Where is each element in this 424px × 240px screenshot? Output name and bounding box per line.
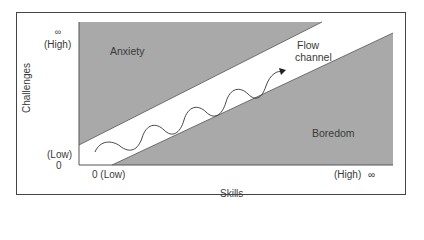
flow-label-line2: channel xyxy=(295,52,332,63)
y-low-label: (Low) xyxy=(47,150,72,160)
x-low-label: 0 (Low) xyxy=(92,170,125,180)
y-high-label: (High) xyxy=(44,40,71,50)
y-low-value: 0 xyxy=(56,161,62,171)
x-high-infinity: ∞ xyxy=(368,170,375,180)
flow-label-line1: Flow xyxy=(297,40,319,51)
x-axis-label: Skills xyxy=(220,189,243,199)
y-axis-label: Challenges xyxy=(21,63,32,113)
y-high-infinity: ∞ xyxy=(46,28,70,37)
anxiety-label: Anxiety xyxy=(110,46,144,57)
boredom-label: Boredom xyxy=(312,128,355,139)
x-high-label: (High) xyxy=(334,170,361,180)
